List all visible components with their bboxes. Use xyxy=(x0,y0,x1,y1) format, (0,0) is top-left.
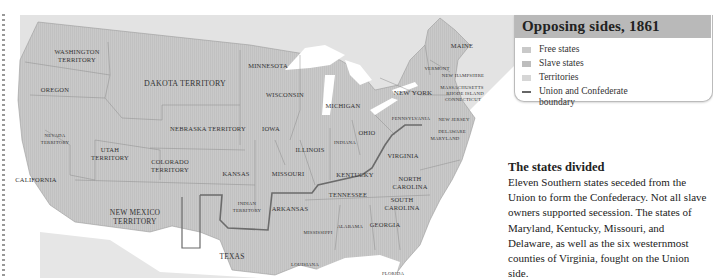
legend-label: Free states xyxy=(539,44,579,55)
svg-text:CALIFORNIA: CALIFORNIA xyxy=(15,176,56,183)
svg-text:SOUTH: SOUTH xyxy=(391,196,414,203)
svg-text:WISCONSIN: WISCONSIN xyxy=(266,91,304,98)
svg-text:NEW MEXICO: NEW MEXICO xyxy=(110,208,161,217)
svg-text:NEW HAMPSHIRE: NEW HAMPSHIRE xyxy=(442,73,484,78)
svg-text:RHODE ISLAND: RHODE ISLAND xyxy=(446,91,484,96)
section-heading: The states divided xyxy=(508,160,711,175)
svg-text:TERRITORY: TERRITORY xyxy=(41,140,70,145)
legend-item-free: Free states xyxy=(522,44,639,58)
svg-text:NEBRASKA TERRITORY: NEBRASKA TERRITORY xyxy=(170,125,246,132)
svg-text:FLORIDA: FLORIDA xyxy=(382,271,405,276)
territories-swatch-icon xyxy=(522,75,531,81)
legend-item-slave: Slave states xyxy=(522,58,639,72)
svg-text:CAROLINA: CAROLINA xyxy=(392,183,427,190)
svg-text:DAKOTA TERRITORY: DAKOTA TERRITORY xyxy=(144,79,226,88)
slave-states-swatch-icon xyxy=(522,61,531,67)
svg-text:TEXAS: TEXAS xyxy=(219,252,244,261)
svg-text:OREGON: OREGON xyxy=(41,86,69,93)
svg-text:TERRITORY: TERRITORY xyxy=(151,166,189,173)
legend-item-territories: Territories xyxy=(522,72,639,86)
svg-text:ALABAMA: ALABAMA xyxy=(337,224,363,229)
svg-text:KANSAS: KANSAS xyxy=(222,170,249,177)
svg-text:VIRGINIA: VIRGINIA xyxy=(387,152,418,159)
svg-text:MINNESOTA: MINNESOTA xyxy=(248,62,288,69)
svg-text:MAINE: MAINE xyxy=(451,42,473,49)
svg-text:LOUISIANA: LOUISIANA xyxy=(291,262,319,267)
legend-label: Union and Confederate boundary xyxy=(539,86,639,108)
svg-text:TERRITORY: TERRITORY xyxy=(233,208,262,213)
svg-text:IOWA: IOWA xyxy=(262,125,280,132)
svg-text:NEVADA: NEVADA xyxy=(45,133,66,138)
svg-text:WASHINGTON: WASHINGTON xyxy=(54,48,99,55)
svg-text:CAROLINA: CAROLINA xyxy=(384,204,419,211)
svg-text:PENNSYLVANIA: PENNSYLVANIA xyxy=(392,116,431,121)
legend-items: Free states Slave states Territories Uni… xyxy=(522,44,639,112)
svg-text:COLORADO: COLORADO xyxy=(151,158,189,165)
svg-text:TERRITORY: TERRITORY xyxy=(58,56,96,63)
svg-text:CONNECTICUT: CONNECTICUT xyxy=(445,97,481,102)
svg-text:GEORGIA: GEORGIA xyxy=(370,221,401,228)
svg-text:UTAH: UTAH xyxy=(101,146,119,153)
svg-text:MISSOURI: MISSOURI xyxy=(272,170,305,177)
svg-text:KENTUCKY: KENTUCKY xyxy=(336,171,373,178)
svg-text:ILLINOIS: ILLINOIS xyxy=(295,146,324,153)
legend-label: Slave states xyxy=(539,58,584,69)
svg-text:NEW YORK: NEW YORK xyxy=(394,89,433,97)
svg-text:MISSISSIPPI: MISSISSIPPI xyxy=(304,230,333,235)
svg-text:MARYLAND: MARYLAND xyxy=(430,136,459,141)
svg-text:OHIO: OHIO xyxy=(358,129,375,136)
svg-text:ARKANSAS: ARKANSAS xyxy=(272,205,309,212)
svg-text:MICHIGAN: MICHIGAN xyxy=(326,102,361,109)
svg-text:INDIAN: INDIAN xyxy=(238,201,257,206)
legend-item-boundary: Union and Confederate boundary xyxy=(522,86,639,112)
section-body: Eleven Southern states seceded from the … xyxy=(508,175,711,278)
free-states-swatch-icon xyxy=(522,47,531,53)
svg-text:DELAWARE: DELAWARE xyxy=(438,129,466,134)
svg-text:NEW JERSEY: NEW JERSEY xyxy=(438,117,469,122)
legend-label: Territories xyxy=(539,72,578,83)
states-divided-section: The states divided Eleven Southern state… xyxy=(508,160,711,278)
svg-text:NORTH: NORTH xyxy=(399,175,422,182)
svg-text:INDIANA: INDIANA xyxy=(334,140,356,145)
svg-text:VERMONT: VERMONT xyxy=(424,66,449,71)
svg-text:TERRITORY: TERRITORY xyxy=(91,154,129,161)
boundary-line-icon xyxy=(522,91,531,93)
legend-title: Opposing sides, 1861 xyxy=(515,15,711,38)
svg-text:TENNESSEE: TENNESSEE xyxy=(329,191,367,198)
svg-text:MASSACHUSETTS: MASSACHUSETTS xyxy=(440,85,484,90)
svg-text:TERRITORY: TERRITORY xyxy=(113,217,157,226)
